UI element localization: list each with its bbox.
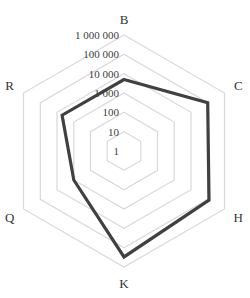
axis-label-k: K	[119, 276, 129, 291]
grid-ring	[91, 112, 158, 189]
tick-label: 1	[114, 145, 120, 157]
tick-label: 10	[108, 126, 120, 138]
grid-ring	[74, 93, 174, 209]
tick-label: 10 000	[89, 68, 120, 80]
axis-label-b: B	[120, 12, 129, 27]
axis-label-h: H	[234, 210, 243, 225]
grid-ring	[24, 35, 225, 267]
axis-label-c: C	[234, 78, 243, 93]
radar-grid	[24, 35, 225, 267]
tick-label: 100	[103, 106, 120, 118]
radar-chart: 1101001 00010 000100 0001 000 000 BCHKQR	[0, 0, 250, 298]
grid-ring	[57, 74, 191, 229]
tick-label: 1 000 000	[75, 29, 120, 41]
tick-label: 100 000	[83, 48, 119, 60]
axis-label-q: Q	[5, 210, 15, 225]
axis-label-r: R	[5, 78, 14, 93]
